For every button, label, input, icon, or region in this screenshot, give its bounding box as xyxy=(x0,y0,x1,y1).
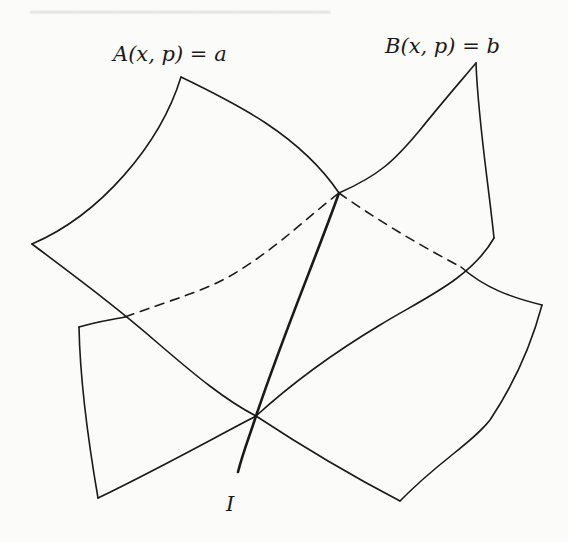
intersecting-surfaces-diagram xyxy=(0,0,568,542)
hidden-edge-left xyxy=(125,193,339,317)
figure-page: ━━━━━━━━━━━━━━━━━━━━━━━━━━━━━━ xyxy=(0,0,568,542)
surface-b-label: B(x, p) = b xyxy=(385,36,500,57)
hidden-edge-right xyxy=(339,193,461,267)
curve-i-label: I xyxy=(226,494,234,515)
surface-a-label: A(x, p) = a xyxy=(113,44,227,65)
surface-b xyxy=(79,63,494,498)
surface-a xyxy=(32,77,542,501)
